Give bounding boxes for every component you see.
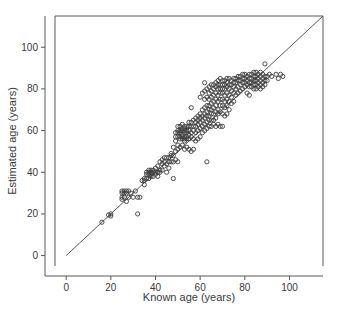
data-point [276,76,280,80]
data-point [263,62,267,66]
identity-line [66,16,323,256]
y-tick-label: 40 [27,167,39,178]
data-point [189,106,193,110]
y-tick-label: 100 [21,42,38,53]
data-point [171,145,175,149]
data-point [165,170,169,174]
data-point [167,166,171,170]
data-point [174,139,178,143]
data-point [198,95,202,99]
data-point [136,212,140,216]
data-point [227,108,231,112]
x-tick-label: 100 [281,282,298,293]
plot-content: 020406080100020406080100Known age (years… [6,16,323,303]
x-axis-title: Known age (years) [143,291,235,303]
x-tick-label: 0 [63,282,69,293]
y-tick-label: 80 [27,83,39,94]
scatter-plot-figure: 020406080100020406080100Known age (years… [0,0,338,319]
y-tick-label: 0 [32,250,38,261]
plot-canvas: 020406080100020406080100Known age (years… [0,0,338,319]
data-point [203,81,207,85]
x-tick-label: 80 [239,282,251,293]
y-tick-label: 20 [27,208,39,219]
data-point [205,160,209,164]
data-point [131,195,135,199]
data-point [274,72,278,76]
data-point [171,176,175,180]
data-points-group [100,62,285,225]
y-tick-label: 60 [27,125,39,136]
y-axis-title: Estimated age (years) [6,87,18,195]
x-tick-label: 20 [105,282,117,293]
